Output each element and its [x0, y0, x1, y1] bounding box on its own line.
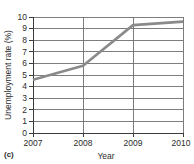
xtick-label-2010: 2010	[172, 138, 191, 148]
ytick-label-10: 10	[18, 12, 28, 22]
ytick-label-9: 9	[22, 23, 27, 33]
xtick-label-2007: 2007	[24, 138, 43, 148]
unemployment-rate-line-chart: 10 9 8 7 6 5 4 3 2 1 0 2007 2008 2009 20…	[0, 0, 194, 164]
horizontal-gridlines	[33, 17, 183, 133]
ytick-label-3: 3	[22, 93, 27, 103]
series-line-unemployment-rate	[33, 22, 183, 80]
ytick-label-4: 4	[22, 81, 27, 91]
y-axis-title: Unemployment rate (%)	[3, 30, 13, 120]
ytick-label-1: 1	[22, 116, 27, 126]
x-tick-labels: 2007 2008 2009 2010	[24, 138, 191, 148]
ytick-label-6: 6	[22, 58, 27, 68]
ytick-label-8: 8	[22, 35, 27, 45]
ytick-label-0: 0	[22, 128, 27, 138]
xtick-label-2008: 2008	[74, 138, 93, 148]
x-axis-title: Year	[97, 151, 114, 161]
ytick-label-5: 5	[22, 70, 27, 80]
ytick-label-7: 7	[22, 47, 27, 57]
x-tick-marks	[33, 133, 183, 137]
y-tick-labels: 10 9 8 7 6 5 4 3 2 1 0	[18, 12, 28, 138]
figure-panel-c: 10 9 8 7 6 5 4 3 2 1 0 2007 2008 2009 20…	[0, 0, 194, 164]
ytick-label-2: 2	[22, 105, 27, 115]
xtick-label-2009: 2009	[124, 138, 143, 148]
y-tick-marks	[29, 17, 33, 133]
panel-caption: (c)	[4, 150, 14, 159]
